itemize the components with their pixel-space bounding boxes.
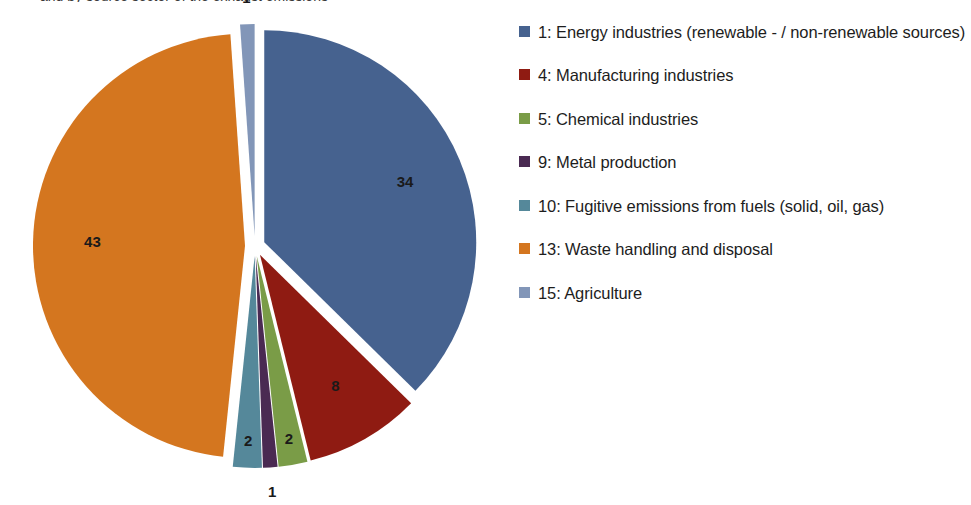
legend-item-9[interactable]: 9: Metal production <box>519 152 967 173</box>
legend-item-13[interactable]: 13: Waste handling and disposal <box>519 239 967 260</box>
legend-item-15[interactable]: 15: Agriculture <box>519 283 967 304</box>
legend-item-10[interactable]: 10: Fugitive emissions from fuels (solid… <box>519 196 967 217</box>
legend-item-label: 1: Energy industries (renewable - / non-… <box>538 22 965 43</box>
legend-swatch-icon <box>519 287 530 298</box>
legend-swatch-icon <box>519 69 530 80</box>
pie-slice-value-9: 1 <box>268 483 276 500</box>
legend-swatch-icon <box>519 113 530 124</box>
legend-swatch-icon <box>519 156 530 167</box>
legend-item-1[interactable]: 1: Energy industries (renewable - / non-… <box>519 22 967 43</box>
pie-slice-15[interactable] <box>240 24 255 236</box>
pie-plot-area: 348212431 <box>0 0 510 505</box>
pie-slice-value-13: 43 <box>84 233 101 250</box>
pie-slice-value-4: 8 <box>331 377 339 394</box>
legend-swatch-icon <box>519 26 530 37</box>
chart-legend: 1: Energy industries (renewable - / non-… <box>519 22 967 326</box>
legend-item-label: 10: Fugitive emissions from fuels (solid… <box>538 196 884 217</box>
pie-slice-value-10: 2 <box>244 432 252 449</box>
legend-item-label: 13: Waste handling and disposal <box>538 239 773 260</box>
legend-item-5[interactable]: 5: Chemical industries <box>519 109 967 130</box>
legend-item-4[interactable]: 4: Manufacturing industries <box>519 65 967 86</box>
legend-item-label: 5: Chemical industries <box>538 109 698 130</box>
legend-item-label: 15: Agriculture <box>538 283 642 304</box>
legend-swatch-icon <box>519 243 530 254</box>
pie-slice-value-15: 1 <box>242 0 250 6</box>
pie-slice-13[interactable] <box>33 34 245 456</box>
legend-item-label: 4: Manufacturing industries <box>538 65 733 86</box>
legend-swatch-icon <box>519 200 530 211</box>
pie-svg: 348212431 <box>0 0 510 505</box>
pie-chart-figure: and by source sector of the exhaust emis… <box>0 0 971 505</box>
pie-slice-value-1: 34 <box>397 173 414 190</box>
legend-item-label: 9: Metal production <box>538 152 676 173</box>
pie-slice-value-5: 2 <box>285 430 293 447</box>
